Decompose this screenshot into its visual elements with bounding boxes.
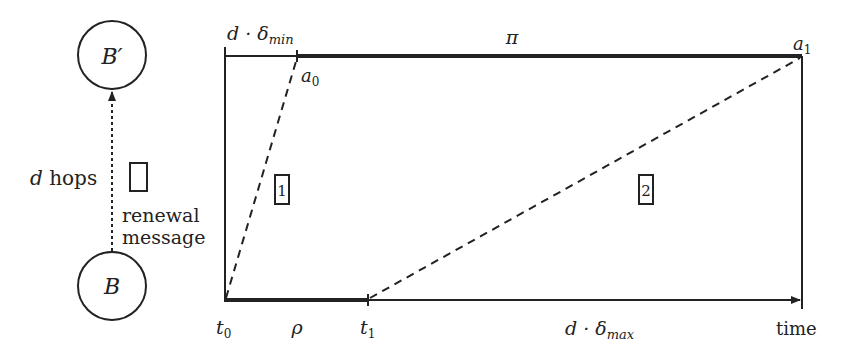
box-2-label: 2 xyxy=(641,182,651,200)
message-icon xyxy=(130,163,147,191)
a1-label: a1 xyxy=(793,33,811,57)
node-b-prime-label: B′ xyxy=(100,44,122,69)
pi-label: π xyxy=(505,26,519,48)
box-1-label: 1 xyxy=(277,182,287,200)
rho-label: ρ xyxy=(290,316,303,338)
path-1-dashed xyxy=(226,58,297,298)
message-label: message xyxy=(122,226,206,248)
node-b: B xyxy=(78,252,146,320)
a0-label: a0 xyxy=(301,65,319,89)
t0-label: t0 xyxy=(216,316,231,341)
node-b-prime: B′ xyxy=(78,21,146,89)
d-delta-min-label: d · δmin xyxy=(227,22,294,47)
t1-label: t1 xyxy=(360,316,375,341)
node-b-label: B xyxy=(103,274,120,299)
time-axis-label: time xyxy=(776,318,817,339)
renewal-label: renewal xyxy=(122,204,199,226)
renewal-timing-diagram: B′ B d hops renewal message 1 2 d · δmin… xyxy=(0,0,842,362)
hops-label: d hops xyxy=(30,166,97,190)
d-delta-max-label: d · δmax xyxy=(565,317,635,342)
path-2-dashed xyxy=(370,58,800,298)
